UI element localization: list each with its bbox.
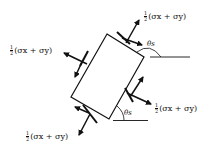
- label-top-right: 12(σx + σy): [144, 11, 186, 22]
- stress-element-diagram: 12(σx + σy) 12(σx + σy) 12(σx + σy) 12(σ…: [0, 0, 218, 158]
- stress-element-rectangle: [71, 34, 144, 119]
- stress-arrows-right-face: [125, 77, 151, 104]
- angle-label-top: θs: [147, 40, 155, 48]
- angle-arc-top: [137, 48, 161, 57]
- label-bottom-left: 12(σx + σy): [26, 131, 68, 142]
- label-left: 12(σx + σy): [10, 45, 52, 56]
- label-right: 12(σx + σy): [155, 103, 197, 114]
- stress-arrows-top-face: [117, 20, 142, 45]
- angle-arc-bottom: [117, 106, 124, 120]
- angle-label-bottom: θs: [124, 109, 132, 117]
